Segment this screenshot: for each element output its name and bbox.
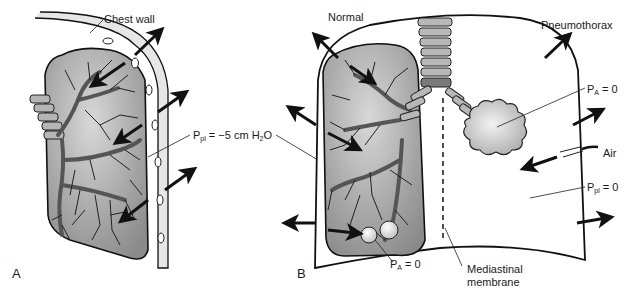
panel-a-letter: A (12, 268, 21, 280)
normal-lung (323, 44, 425, 256)
pressure-value: = 0 (402, 258, 421, 270)
mediastinal-membrane-label-line1: Mediastinal (467, 263, 523, 275)
alveolar-pressure-label-right: PA = 0 (587, 83, 618, 99)
mediastinal-membrane-label-line2: membrane (467, 276, 520, 288)
pressure-value: = −5 cm H (206, 129, 260, 141)
pneumothorax-label: Pneumothorax (541, 19, 613, 31)
chest-wall-label: Chest wall (104, 13, 155, 25)
pressure-value: = 0 (600, 181, 619, 193)
panel-b-letter: B (297, 268, 306, 280)
pressure-value: = 0 (599, 83, 618, 95)
collapsed-lung (464, 99, 527, 154)
panel-a-lung (30, 48, 148, 259)
pleural-pressure-label-a: Ppl = −5 cm H2O (193, 129, 272, 145)
lung-pneumothorax-diagram: Chest wall Ppl = −5 cm H2O A B Normal Pn… (0, 0, 635, 294)
normal-label: Normal (328, 11, 363, 23)
pleural-pressure-label-b: Ppl = 0 (587, 181, 618, 197)
alveolar-pressure-label-left: PA = 0 (390, 258, 421, 274)
air-label: Air (603, 147, 616, 159)
water-suffix: O (264, 129, 273, 141)
